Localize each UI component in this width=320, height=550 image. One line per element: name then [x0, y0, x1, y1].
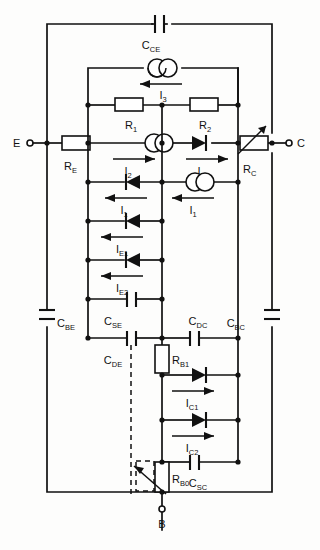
capacitor-csc [190, 455, 199, 470]
label-ic2: IC2 [186, 442, 199, 457]
label-rb1: RB1 [172, 354, 189, 369]
current-source-i2-left [145, 134, 173, 152]
label-i3: I3 [159, 89, 166, 104]
capacitor-cbc [264, 310, 280, 319]
current-arrow-ie2 [101, 272, 143, 280]
capacitor-cce [152, 15, 167, 33]
diode-ic2 [192, 412, 206, 428]
resistor-rb1 [155, 345, 169, 373]
current-arrow-i2-right [186, 155, 228, 163]
base-terminal-node[interactable] [159, 506, 165, 512]
diode-i2-right [192, 135, 206, 151]
label-ic1: IC1 [186, 397, 199, 412]
current-arrow-i1-left [105, 194, 147, 202]
circuit-diagram-canvas: .w{stroke:#111;stroke-width:1.7;fill:non… [0, 0, 320, 550]
label-csc: CSC [189, 477, 208, 492]
current-arrow-i1-right [172, 194, 214, 202]
label-cbe: CBE [57, 317, 75, 332]
label-cdc: CDC [189, 315, 208, 330]
current-arrow-i3 [140, 80, 182, 88]
label-rc: RC [243, 163, 257, 178]
capacitor-cdc [190, 331, 199, 346]
emitter-terminal-node[interactable] [27, 140, 33, 146]
collector-terminal-node[interactable] [286, 140, 292, 146]
junction-dots [44, 102, 274, 494]
label-r1: R1 [125, 119, 137, 134]
resistor-rb0 [155, 462, 169, 492]
label-cce: CCE [142, 39, 160, 54]
label-rb0: RB0 [172, 473, 189, 488]
label-cse: CSE [104, 315, 122, 330]
label-i1-right: I1 [189, 204, 196, 219]
label-c: C [297, 137, 305, 149]
label-r2: R2 [199, 119, 211, 134]
resistor-r1 [115, 98, 143, 111]
capacitor-cbe [39, 310, 55, 319]
current-arrow-i2-left [113, 155, 155, 163]
label-e: E [13, 137, 20, 149]
schematic-svg: .w{stroke:#111;stroke-width:1.7;fill:non… [0, 0, 320, 550]
diode-ie1 [126, 213, 140, 229]
label-cbc: CBC [227, 317, 246, 332]
label-cde: CDE [104, 354, 122, 369]
diode-ic1 [192, 367, 206, 383]
current-arrow-ic1 [172, 387, 214, 395]
current-source-i3 [148, 59, 177, 77]
variable-resistor-rc [238, 126, 268, 154]
current-source-i1-right [186, 173, 214, 191]
label-b: B [158, 518, 165, 530]
label-re: RE [64, 160, 77, 175]
current-arrow-ie1 [101, 233, 143, 241]
current-arrow-ic2 [172, 432, 214, 440]
resistor-r2 [190, 98, 218, 111]
capacitor-cde [127, 331, 136, 346]
capacitor-cse [127, 292, 136, 307]
